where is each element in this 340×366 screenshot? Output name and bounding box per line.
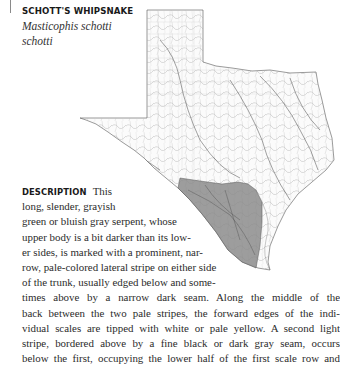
description-line-10: vidual scales are tipped with white or p… xyxy=(22,321,340,336)
description-line-8: times above by a narrow dark seam. Along… xyxy=(22,290,340,305)
description-line-5: er sides, is marked with a prominent, na… xyxy=(22,245,340,260)
description-line-4: upper body is a bit darker than its low- xyxy=(22,230,340,245)
description-line-9: back between the two pale stripes, the f… xyxy=(22,306,340,321)
description-line-1: DESCRIPTIONThis xyxy=(22,184,340,199)
description-label: DESCRIPTION xyxy=(22,187,87,197)
description-line-7: of the trunk, usually edged below and so… xyxy=(22,275,340,290)
description-line-3: green or bluish gray serpent, whose xyxy=(22,214,340,229)
description-line-11: stripe, bordered above by a fine black o… xyxy=(22,336,340,351)
description-line-6: row, pale-colored lateral stripe on eith… xyxy=(22,260,340,275)
description-line-2: long, slender, grayish xyxy=(22,199,340,214)
description-line-12: below the first, occupying the lower hal… xyxy=(22,351,340,366)
description-body: DESCRIPTIONThis long, slender, grayish g… xyxy=(22,184,340,366)
